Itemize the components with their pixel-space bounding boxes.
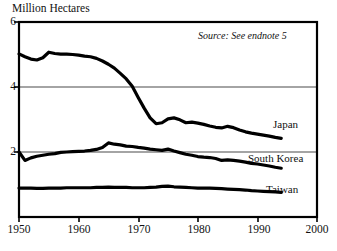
series-line-south-korea xyxy=(19,143,281,168)
data-series-group xyxy=(19,52,281,192)
series-line-japan xyxy=(19,52,281,138)
plot-area xyxy=(0,0,337,251)
chart-figure: Million Hectares 6 4 2 1950 1960 1970 19… xyxy=(0,0,337,251)
series-line-taiwan xyxy=(19,186,281,192)
